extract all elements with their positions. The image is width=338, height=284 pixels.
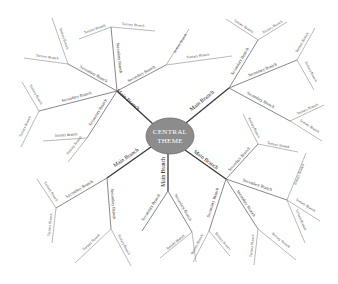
tertiary-branch-label: Tertiary Branch (293, 163, 305, 186)
main-branch-ne: Main Branch Secondary Branch Tertiary Br… (186, 18, 324, 141)
central-theme-line2: THEME (157, 137, 183, 145)
central-theme-line1: CENTRAL (153, 128, 187, 136)
main-branch-label: Main Branch (193, 148, 220, 170)
tertiary-branch-label: Tertiary Branch (28, 84, 43, 106)
tertiary-branch-label: Tertiary Branch (271, 232, 291, 249)
central-theme-ellipse (146, 118, 194, 154)
secondary-branch-label: Secondary Branch (79, 64, 109, 84)
tertiary-branch-label: Tertiary Branch (214, 231, 232, 251)
secondary-branch-label: Secondary Branch (65, 178, 95, 199)
secondary-branch-label: Secondary Branch (87, 97, 108, 127)
secondary-branch-label: Secondary Branch (227, 145, 252, 172)
main-branch-label: Main Branch (188, 89, 215, 112)
tertiary-branch-label: Tertiary Branch (165, 233, 185, 250)
main-branch-s: Main Branch Secondary Branch Secondary B… (140, 153, 196, 262)
tertiary-branch-label: Tertiary Branch (82, 233, 101, 252)
tertiary-branch-label: Tertiary Branch (299, 118, 320, 133)
tertiary-branch-label: Tertiary Branch (18, 115, 32, 137)
tertiary-branch-label: Tertiary Branch (295, 32, 310, 54)
tertiary-branch-label: Tertiary Branch (186, 52, 209, 59)
main-branch-se: Main Branch Secondary Branch Tertiary Br… (185, 114, 320, 265)
tertiary-branch-label: Tertiary Branch (122, 22, 145, 28)
tertiary-branch-label: Tertiary Branch (172, 33, 187, 54)
secondary-branch-label: Secondary Branch (236, 189, 257, 218)
main-branch-nw: Main Branch Secondary Branch Tertiary Br… (18, 18, 232, 162)
main-branch-label: Main Branch (115, 87, 141, 111)
secondary-branch-label: Secondary Branch (115, 42, 123, 74)
tertiary-branch-label: Tertiary Branch (55, 132, 78, 138)
central-theme-node: CENTRAL THEME (146, 118, 194, 154)
secondary-branch-label: Secondary Branch (110, 188, 117, 220)
tertiary-branch-label: Tertiary Branch (47, 213, 53, 236)
tertiary-branch-label: Tertiary Branch (58, 27, 69, 50)
secondary-branch-label: Secondary Branch (230, 46, 251, 76)
tertiary-branch-label: Tertiary Branch (36, 53, 59, 60)
tertiary-branch-label: Tertiary Branch (233, 18, 254, 34)
main-branch-sw: Main Branch Secondary Branch Tertiary Br… (37, 147, 151, 266)
secondary-branch-label: Secondary Branch (127, 64, 157, 83)
tertiary-branch-label: Tertiary Branch (66, 135, 83, 155)
main-branch-label: Main Branch (160, 157, 166, 187)
tertiary-branch-label: Tertiary Branch (262, 20, 284, 35)
mind-map-diagram: Main Branch Secondary Branch Tertiary Br… (0, 0, 338, 284)
tertiary-branch-label: Tertiary Branch (304, 61, 318, 83)
tertiary-branch-label: Tertiary Branch (249, 234, 255, 257)
secondary-branch-label: Secondary Branch (205, 186, 220, 218)
